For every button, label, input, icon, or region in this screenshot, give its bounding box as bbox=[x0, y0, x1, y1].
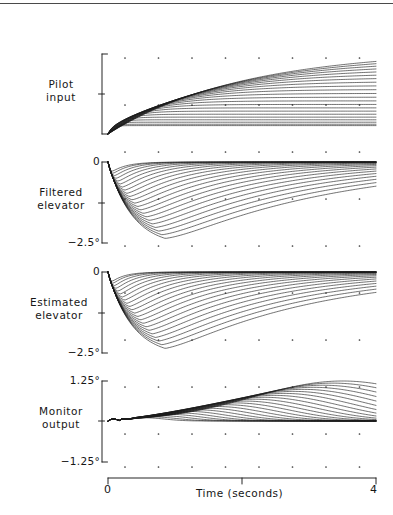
figure-canvas bbox=[0, 0, 393, 515]
curve-family-monitor-output bbox=[108, 381, 376, 421]
figure-root: Pilotinput Filteredelevator 0 −2.5° Esti… bbox=[0, 0, 393, 515]
x-axis-bar bbox=[108, 478, 376, 484]
curve-family-pilot-input bbox=[108, 61, 376, 134]
curve-family-estimated-elevator bbox=[108, 272, 376, 348]
curve-family-filtered-elevator bbox=[108, 162, 376, 238]
axis-brackets bbox=[99, 54, 108, 462]
